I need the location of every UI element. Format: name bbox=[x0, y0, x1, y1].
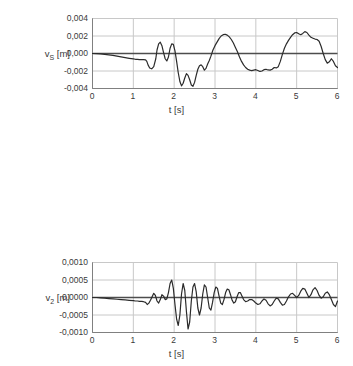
x-tick-label: 3 bbox=[212, 91, 217, 101]
x-axis-label-vs: t [s] bbox=[0, 104, 353, 115]
x-tick-label: 0 bbox=[90, 91, 95, 101]
x-tick-label: 1 bbox=[130, 91, 135, 101]
figure-container: vS [m] 0,0040,0020,000-0,002-0,004 01234… bbox=[0, 0, 353, 366]
x-tick-label: 6 bbox=[335, 91, 340, 101]
y-tick-label: -0,004 bbox=[64, 83, 88, 93]
y-tick-label: 0,004 bbox=[67, 13, 88, 23]
x-tick-label: 5 bbox=[294, 91, 299, 101]
chart-panel-phi2: φ2 0,000100,000050,00000-0,00005-0,00010… bbox=[0, 244, 353, 366]
y-tick-label: 0,002 bbox=[67, 31, 88, 41]
y-tick-label: -0,002 bbox=[64, 66, 88, 76]
chart-panel-vs: vS [m] 0,0040,0020,000-0,002-0,004 01234… bbox=[0, 0, 353, 122]
x-tick-label: 2 bbox=[171, 91, 176, 101]
chart-panel-v2: v2 [m] 0,00100,00050,0000-0,0005-0,0010 … bbox=[0, 122, 353, 244]
x-tick-label: 4 bbox=[253, 91, 258, 101]
y-tick-label: 0,000 bbox=[67, 48, 88, 58]
plot-area-vs bbox=[92, 18, 338, 89]
chart-svg bbox=[92, 18, 338, 89]
